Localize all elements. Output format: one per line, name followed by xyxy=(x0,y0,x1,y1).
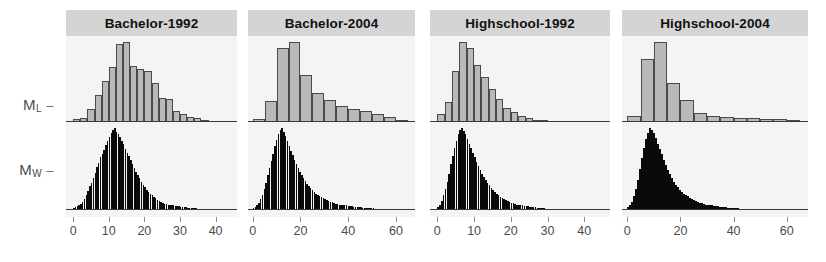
histogram-bar xyxy=(265,101,277,122)
histogram-bar xyxy=(496,99,503,122)
histogram-bar xyxy=(277,48,289,122)
x-axis-tick xyxy=(511,217,512,222)
x-axis-tick xyxy=(437,217,438,222)
histogram-bar xyxy=(654,42,667,122)
x-axis-tick-label: 40 xyxy=(577,224,591,238)
x-axis-tick xyxy=(216,217,217,222)
histogram-bar xyxy=(467,48,474,122)
x-axis-tick-label: 60 xyxy=(389,224,403,238)
histogram-bar xyxy=(489,89,496,122)
x-axis: 0204060 xyxy=(622,217,808,257)
x-axis-tick xyxy=(627,217,628,222)
x-axis-tick-label: 40 xyxy=(727,224,741,238)
x-axis-tick xyxy=(396,217,397,222)
panel-title: Highschool-1992 xyxy=(465,16,575,31)
histogram-ml xyxy=(622,36,808,122)
x-axis-tick-label: 0 xyxy=(434,224,441,238)
x-axis-tick-label: 0 xyxy=(249,224,256,238)
x-axis: 010203040 xyxy=(66,217,237,257)
histogram-ml xyxy=(430,36,610,122)
histogram-mw xyxy=(66,122,237,210)
histogram-bar xyxy=(459,42,466,122)
x-axis-tick-label: 20 xyxy=(674,224,688,238)
x-axis-tick xyxy=(300,217,301,222)
histogram-baseline xyxy=(430,209,610,210)
histogram-mw xyxy=(248,122,415,210)
x-axis-tick xyxy=(144,217,145,222)
histogram-bar xyxy=(289,42,301,122)
histogram-bar xyxy=(137,69,144,122)
x-axis-tick-label: 20 xyxy=(137,224,151,238)
x-axis-tick-label: 20 xyxy=(504,224,518,238)
histogram-ml xyxy=(66,36,237,122)
histogram-bar xyxy=(312,93,324,122)
x-axis-tick xyxy=(474,217,475,222)
x-axis-tick xyxy=(253,217,254,222)
x-axis-tick xyxy=(109,217,110,222)
histogram-bar xyxy=(300,75,312,122)
panel-title: Highschool-2004 xyxy=(660,16,770,31)
histogram-baseline xyxy=(248,209,415,210)
x-axis-tick xyxy=(787,217,788,222)
histogram-bar xyxy=(116,44,123,122)
plot-area xyxy=(248,36,415,217)
x-axis-tick-label: 20 xyxy=(294,224,308,238)
chart-panel: Bachelor-1992010203040 xyxy=(66,0,237,262)
x-axis-tick-label: 40 xyxy=(341,224,355,238)
panel-title: Bachelor-1992 xyxy=(105,16,199,31)
plot-area xyxy=(430,36,610,217)
x-axis: 010203040 xyxy=(430,217,610,257)
x-axis-tick xyxy=(180,217,181,222)
x-axis-tick xyxy=(734,217,735,222)
x-axis-tick-label: 10 xyxy=(102,224,116,238)
histogram-bar xyxy=(123,42,130,122)
panel-strip-header: Highschool-2004 xyxy=(622,10,808,36)
panel-title: Bachelor-2004 xyxy=(285,16,379,31)
x-axis-tick xyxy=(548,217,549,222)
x-axis-tick-label: 30 xyxy=(173,224,187,238)
histogram-bar xyxy=(680,100,693,122)
x-axis-tick xyxy=(680,217,681,222)
histogram-bar xyxy=(144,71,151,122)
histogram-bar xyxy=(102,81,109,122)
x-axis-tick-label: 0 xyxy=(624,224,631,238)
x-axis-tick-label: 40 xyxy=(209,224,223,238)
histogram-baseline xyxy=(622,209,808,210)
x-axis-tick xyxy=(584,217,585,222)
histogram-bar xyxy=(336,106,348,122)
x-axis-tick xyxy=(73,217,74,222)
panel-strip-header: Highschool-1992 xyxy=(430,10,610,36)
histogram-bar xyxy=(481,77,488,122)
figure-root: ML – MW – Bachelor-1992010203040Bachelor… xyxy=(0,0,826,262)
histogram-bar xyxy=(667,83,680,122)
panel-container: Bachelor-1992010203040Bachelor-200402040… xyxy=(0,0,826,262)
histogram-bar xyxy=(324,100,336,122)
x-axis-tick-label: 10 xyxy=(467,224,481,238)
histogram-baseline xyxy=(66,209,237,210)
plot-area xyxy=(622,36,808,217)
x-axis: 0204060 xyxy=(248,217,415,257)
chart-panel: Highschool-20040204060 xyxy=(622,0,808,262)
histogram-bar xyxy=(152,83,159,122)
x-axis-tick-label: 0 xyxy=(70,224,77,238)
histogram-bar xyxy=(159,98,166,122)
panel-strip-header: Bachelor-1992 xyxy=(66,10,237,36)
x-axis-tick-label: 30 xyxy=(541,224,555,238)
histogram-mw xyxy=(622,122,808,210)
histogram-bar xyxy=(445,102,452,123)
plot-area xyxy=(66,36,237,217)
x-axis-tick xyxy=(348,217,349,222)
x-axis-tick-label: 60 xyxy=(780,224,794,238)
histogram-bar xyxy=(109,67,116,122)
chart-panel: Highschool-1992010203040 xyxy=(430,0,610,262)
histogram-bar xyxy=(641,59,654,122)
histogram-bar xyxy=(130,66,137,122)
histogram-bar xyxy=(503,108,510,122)
histogram-ml xyxy=(248,36,415,122)
panel-strip-header: Bachelor-2004 xyxy=(248,10,415,36)
histogram-bar xyxy=(452,71,459,122)
histogram-mw xyxy=(430,122,610,210)
histogram-bar xyxy=(95,95,102,122)
chart-panel: Bachelor-20040204060 xyxy=(248,0,415,262)
histogram-bar xyxy=(474,65,481,122)
